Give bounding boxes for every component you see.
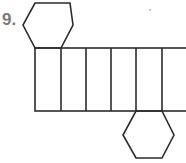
top-hexagon-face <box>23 3 73 48</box>
bottom-hexagon-face <box>123 111 174 158</box>
lateral-face-dividers <box>61 48 162 111</box>
prism-net-diagram <box>0 0 186 163</box>
speck-mark <box>149 9 151 11</box>
